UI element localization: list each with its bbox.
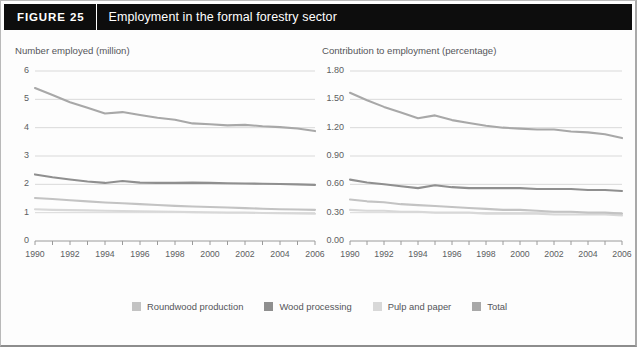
x-axis-tick-label: 1990	[336, 249, 364, 259]
legend-item-label: Pulp and paper	[388, 301, 452, 312]
figure-number-label: FIGURE 25	[4, 11, 96, 23]
legend-swatch-icon	[132, 302, 141, 311]
y-axis-tick-label: 0.00	[316, 235, 344, 245]
chart-left-axis-title: Number employed (million)	[15, 45, 130, 56]
figure-title: Employment in the formal forestry sector	[97, 10, 337, 24]
y-axis-tick-label: 0	[9, 235, 29, 245]
legend-item[interactable]: Wood processing	[264, 301, 351, 312]
x-axis-tick-label: 1994	[91, 249, 119, 259]
x-axis-tick-label: 2004	[574, 249, 602, 259]
x-axis-tick-label: 2002	[540, 249, 568, 259]
figure-header: FIGURE 25 Employment in the formal fores…	[4, 4, 632, 30]
y-axis-tick-label: 0.60	[316, 178, 344, 188]
x-axis-tick-label: 1996	[126, 249, 154, 259]
x-axis-tick-label: 1994	[404, 249, 432, 259]
legend-swatch-icon	[264, 302, 273, 311]
y-axis-tick-label: 3	[9, 150, 29, 160]
x-axis-tick-label: 2006	[608, 249, 636, 259]
plot-area-left	[9, 63, 321, 263]
chart-right-axis-title: Contribution to employment (percentage)	[322, 45, 496, 56]
y-axis-tick-label: 1.80	[316, 65, 344, 75]
x-axis-tick-label: 1998	[472, 249, 500, 259]
y-axis-tick-label: 6	[9, 65, 29, 75]
legend-item-label: Roundwood production	[147, 301, 243, 312]
x-axis-tick-label: 1992	[370, 249, 398, 259]
legend-swatch-icon	[472, 302, 481, 311]
chart-legend: Roundwood productionWood processingPulp …	[1, 301, 637, 312]
y-axis-tick-label: 1	[9, 207, 29, 217]
legend-item-label: Total	[487, 301, 507, 312]
x-axis-tick-label: 1992	[56, 249, 84, 259]
x-axis-tick-label: 2004	[266, 249, 294, 259]
legend-item[interactable]: Roundwood production	[132, 301, 243, 312]
y-axis-tick-label: 2	[9, 178, 29, 188]
legend-swatch-icon	[373, 302, 382, 311]
x-axis-tick-label: 2000	[196, 249, 224, 259]
y-axis-tick-label: 4	[9, 122, 29, 132]
legend-item[interactable]: Total	[472, 301, 507, 312]
figure-panel: FIGURE 25 Employment in the formal fores…	[0, 0, 637, 347]
legend-item-label: Wood processing	[279, 301, 351, 312]
y-axis-tick-label: 1.20	[316, 122, 344, 132]
y-axis-tick-label: 1.50	[316, 93, 344, 103]
chart-contribution-to-employment: Contribution to employment (percentage) …	[316, 45, 628, 290]
chart-number-employed: Number employed (million) 01234561990199…	[9, 45, 321, 290]
x-axis-tick-label: 2002	[231, 249, 259, 259]
x-axis-tick-label: 1990	[21, 249, 49, 259]
x-axis-tick-label: 1998	[161, 249, 189, 259]
legend-item[interactable]: Pulp and paper	[373, 301, 452, 312]
plot-area-right	[316, 63, 628, 263]
x-axis-tick-label: 2000	[506, 249, 534, 259]
y-axis-tick-label: 0.90	[316, 150, 344, 160]
y-axis-tick-label: 5	[9, 93, 29, 103]
y-axis-tick-label: 0.30	[316, 207, 344, 217]
x-axis-tick-label: 1996	[438, 249, 466, 259]
